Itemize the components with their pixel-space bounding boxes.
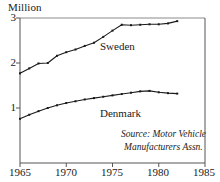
data-point-denmark-1965 bbox=[19, 118, 21, 120]
data-point-denmark-1966 bbox=[28, 114, 30, 116]
data-point-sweden-1970 bbox=[65, 51, 67, 53]
data-point-denmark-1969 bbox=[56, 104, 58, 106]
data-point-sweden-1978 bbox=[139, 24, 141, 26]
data-point-denmark-1976 bbox=[121, 93, 123, 95]
data-point-sweden-1965 bbox=[19, 72, 21, 74]
data-point-denmark-1967 bbox=[38, 110, 40, 112]
data-point-sweden-1977 bbox=[130, 24, 132, 26]
axes-group bbox=[16, 18, 205, 167]
data-point-sweden-1972 bbox=[84, 45, 86, 47]
data-point-sweden-1979 bbox=[149, 23, 151, 25]
chart-container: Million 3 2 1 1965 1970 1975 1980 1985 S… bbox=[0, 0, 220, 182]
data-point-sweden-1980 bbox=[158, 23, 160, 25]
data-point-sweden-1971 bbox=[75, 49, 77, 51]
data-point-sweden-1973 bbox=[93, 42, 95, 44]
data-point-denmark-1970 bbox=[65, 102, 67, 104]
data-point-denmark-1972 bbox=[84, 98, 86, 100]
data-point-denmark-1977 bbox=[130, 92, 132, 94]
plot-svg bbox=[0, 0, 220, 182]
series-line-sweden bbox=[20, 21, 177, 73]
data-point-denmark-1974 bbox=[102, 96, 104, 98]
data-point-denmark-1980 bbox=[158, 91, 160, 93]
data-point-sweden-1966 bbox=[28, 67, 30, 69]
data-point-sweden-1982 bbox=[176, 20, 178, 22]
data-point-sweden-1969 bbox=[56, 55, 58, 57]
data-point-denmark-1968 bbox=[47, 107, 49, 109]
data-point-denmark-1971 bbox=[75, 100, 77, 102]
data-point-denmark-1981 bbox=[167, 92, 169, 94]
data-point-sweden-1976 bbox=[121, 24, 123, 26]
data-point-denmark-1978 bbox=[139, 90, 141, 92]
series-group bbox=[19, 20, 178, 120]
data-point-denmark-1982 bbox=[176, 93, 178, 95]
data-point-sweden-1968 bbox=[47, 62, 49, 64]
data-point-sweden-1975 bbox=[112, 30, 114, 32]
data-point-sweden-1974 bbox=[102, 36, 104, 38]
data-point-sweden-1981 bbox=[167, 22, 169, 24]
data-point-denmark-1975 bbox=[112, 94, 114, 96]
data-point-denmark-1973 bbox=[93, 97, 95, 99]
data-point-denmark-1979 bbox=[149, 90, 151, 92]
series-line-denmark bbox=[20, 91, 177, 119]
data-point-sweden-1967 bbox=[38, 62, 40, 64]
